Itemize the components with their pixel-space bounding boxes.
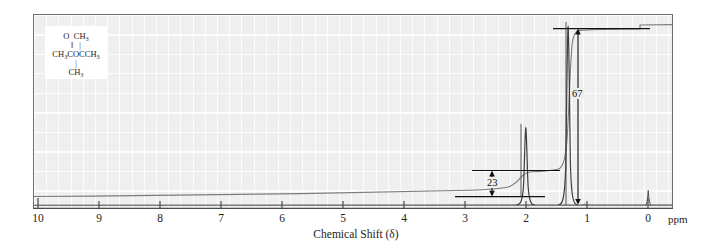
- x-tick-label-0: 0: [645, 212, 651, 224]
- x-tick-label-6: 6: [279, 212, 285, 224]
- x-tick-label-2: 2: [523, 212, 529, 224]
- integral-value-67: 67: [571, 88, 584, 99]
- x-tick-label-1: 1: [584, 212, 590, 224]
- oxygen-atom-label: O: [63, 31, 69, 41]
- x-tick-label-5: 5: [340, 212, 346, 224]
- x-tick-label-7: 7: [218, 212, 224, 224]
- structure-line-top: O CH3: [45, 26, 107, 41]
- structure-bonds-upper: ‖ |: [45, 41, 107, 50]
- ppm-unit-label: ppm: [668, 213, 688, 225]
- methyl-top-label: CH3: [74, 31, 89, 41]
- nmr-spectrum-figure: 23 67 O CH3 ‖ | CH3COCCH3 | CH3 10 9 8 7…: [0, 0, 712, 248]
- integral-value-23: 23: [486, 177, 499, 188]
- x-tick-label-4: 4: [401, 212, 407, 224]
- x-tick-label-10: 10: [32, 212, 44, 224]
- structure-main-chain: CH3COCCH3: [45, 49, 107, 59]
- x-axis-title: Chemical Shift (δ): [0, 228, 712, 240]
- x-tick-label-3: 3: [462, 212, 468, 224]
- molecular-structure-inset: O CH3 ‖ | CH3COCCH3 | CH3: [45, 26, 107, 79]
- methyl-bottom-label: CH3: [45, 67, 107, 77]
- x-tick-label-9: 9: [96, 212, 102, 224]
- x-tick-label-8: 8: [157, 212, 163, 224]
